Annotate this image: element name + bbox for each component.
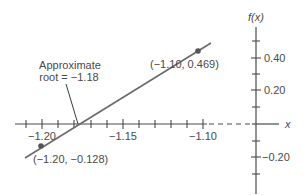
y-tick-label-0-20: 0.20	[264, 84, 285, 96]
y-tick-label-neg-0-20: −0.20	[262, 151, 290, 163]
x-tick-label-1-10: −1.10	[189, 130, 217, 142]
y-tick-label-0-40: 0.40	[264, 52, 285, 64]
y-axis-label: f(x)	[248, 11, 264, 23]
data-point-left-label: (−1.20, −0.128)	[33, 153, 108, 165]
root-annotation-pointer	[66, 84, 78, 124]
data-point-right-label: (−1.10, 0.469)	[150, 58, 219, 70]
x-axis-label: x	[284, 118, 291, 130]
data-point-right	[195, 48, 201, 54]
root-annotation-line1: Approximate	[39, 59, 101, 71]
x-tick-label-1-20: −1.20	[28, 130, 56, 142]
root-approximation-chart: x −1.20 −1.15 −1.10 f(x) 0.40 0.20 −0.20	[0, 0, 303, 195]
root-annotation-line2: root = −1.18	[39, 71, 98, 83]
data-point-left	[38, 143, 44, 149]
x-tick-label-1-15: −1.15	[109, 130, 137, 142]
